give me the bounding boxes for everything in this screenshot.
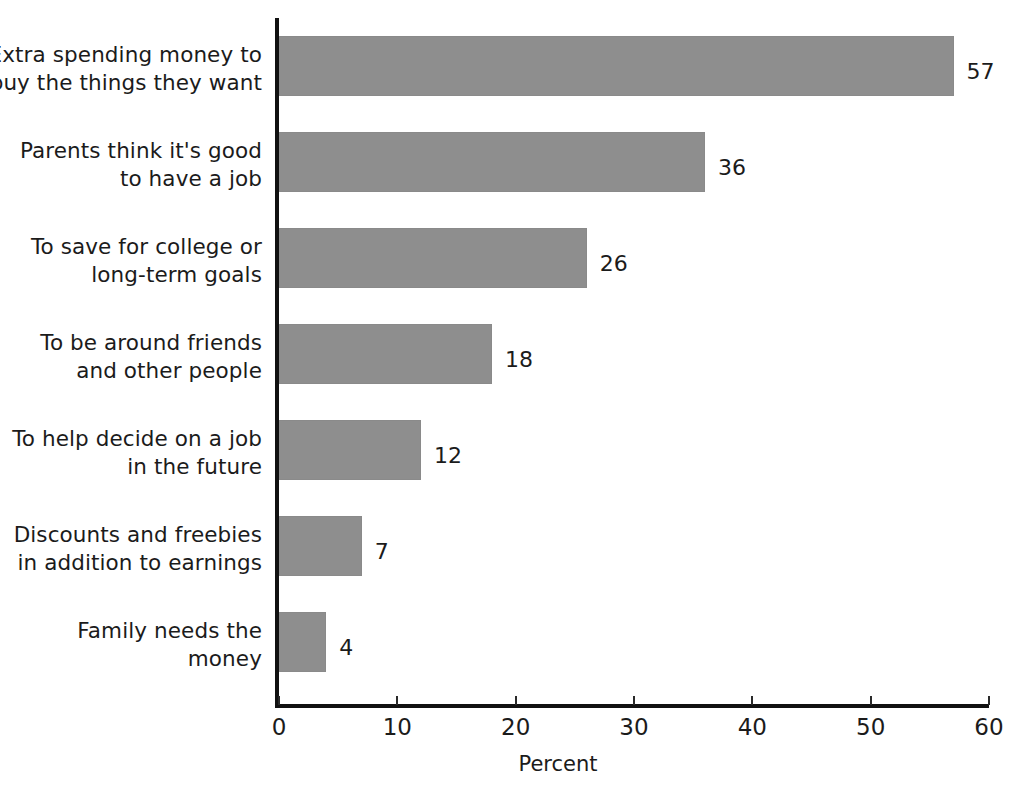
x-axis-title: Percent	[0, 752, 1028, 776]
x-tick-30	[633, 696, 635, 705]
x-tick-50	[870, 696, 872, 705]
y-axis-line	[275, 18, 279, 708]
category-label-6: Family needs the money	[0, 617, 262, 673]
x-tick-10	[396, 696, 398, 705]
bar-value-5: 7	[375, 539, 389, 565]
x-axis-line	[275, 704, 989, 708]
x-tick-0	[278, 696, 280, 705]
bar-value-2: 26	[600, 251, 628, 277]
bar-0	[279, 36, 954, 96]
bar-chart: Extra spending money to buy the things t…	[0, 0, 1028, 796]
x-tick-40	[751, 696, 753, 705]
x-tick-label-20: 20	[486, 712, 546, 742]
category-label-3: To be around friends and other people	[0, 329, 262, 385]
bar-value-1: 36	[718, 155, 746, 181]
bar-3	[279, 324, 492, 384]
x-tick-20	[515, 696, 517, 705]
category-label-2: To save for college or long-term goals	[0, 233, 262, 289]
bar-1	[279, 132, 705, 192]
category-label-5: Discounts and freebies in addition to ea…	[0, 521, 262, 577]
bar-4	[279, 420, 421, 480]
x-tick-label-50: 50	[841, 712, 901, 742]
category-label-0: Extra spending money to buy the things t…	[0, 41, 262, 97]
x-tick-label-10: 10	[367, 712, 427, 742]
x-tick-label-30: 30	[604, 712, 664, 742]
category-label-4: To help decide on a job in the future	[0, 425, 262, 481]
x-tick-label-60: 60	[959, 712, 1019, 742]
bar-6	[279, 612, 326, 672]
bar-value-6: 4	[339, 635, 353, 661]
x-tick-label-0: 0	[249, 712, 309, 742]
bar-value-4: 12	[434, 443, 462, 469]
x-tick-60	[988, 696, 990, 705]
bar-value-0: 57	[967, 59, 995, 85]
bar-5	[279, 516, 362, 576]
category-label-1: Parents think it's good to have a job	[0, 137, 262, 193]
x-axis-title-text: Percent	[518, 752, 597, 776]
bar-value-3: 18	[505, 347, 533, 373]
bar-2	[279, 228, 587, 288]
x-tick-label-40: 40	[722, 712, 782, 742]
